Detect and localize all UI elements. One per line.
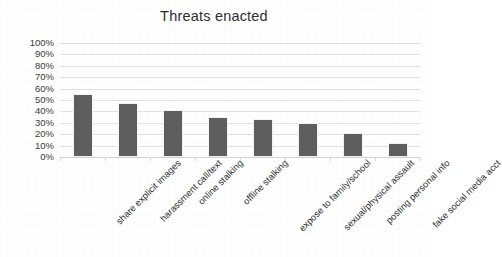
bar	[253, 119, 273, 157]
x-axis-tick-label: offline stalking	[241, 158, 290, 207]
y-axis-tick-label: 20%	[8, 129, 54, 139]
bar	[388, 143, 408, 157]
chart-title: Threats enacted	[0, 8, 428, 24]
y-axis: 0%10%20%30%40%50%60%70%80%90%100%	[8, 43, 54, 157]
bar	[208, 117, 228, 157]
x-axis-tickmark	[240, 158, 241, 161]
y-axis-tick-label: 30%	[8, 118, 54, 128]
x-axis-tick-label: expose to family/school	[297, 158, 372, 233]
y-axis-tick-label: 50%	[8, 95, 54, 105]
x-axis-tickmark	[150, 158, 151, 161]
x-axis-tickmark	[105, 158, 106, 161]
bars-container	[60, 43, 420, 157]
x-axis-tick-label: sexual/physical assault	[341, 158, 415, 232]
bar	[118, 103, 138, 157]
y-axis-tick-label: 70%	[8, 72, 54, 82]
y-axis-tick-label: 10%	[8, 141, 54, 151]
bar	[73, 94, 93, 157]
y-axis-tick-label: 60%	[8, 84, 54, 94]
y-axis-tick-label: 90%	[8, 49, 54, 59]
y-axis-tick-label: 40%	[8, 106, 54, 116]
x-axis-tickmark	[420, 158, 421, 161]
y-axis-tick-label: 0%	[8, 152, 54, 162]
bar	[298, 123, 318, 157]
x-axis-tickmark	[375, 158, 376, 161]
bar	[163, 110, 183, 157]
x-axis: share explicit imagesharassment call/tex…	[60, 158, 428, 257]
y-axis-tick-label: 80%	[8, 61, 54, 71]
x-axis-tickmark	[285, 158, 286, 161]
x-axis-tickmark	[330, 158, 331, 161]
y-axis-tick-label: 100%	[8, 38, 54, 48]
x-axis-tickmark	[60, 158, 61, 161]
x-axis-tickmark	[195, 158, 196, 161]
bar	[343, 133, 363, 157]
